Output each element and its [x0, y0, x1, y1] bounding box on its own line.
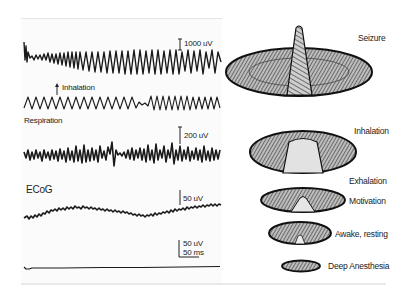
awake-cone-illustration [267, 220, 333, 246]
scale-label-v: 50 uV [183, 239, 203, 248]
inhalation-marker-label: Inhalation [62, 83, 95, 92]
respiration-label: Respiration [24, 116, 62, 125]
scale-label-1000uv: 1000 uV [184, 39, 212, 48]
olfactory-trace [22, 140, 222, 170]
bottom-divider [21, 283, 386, 285]
inhalation-cone-illustration [248, 127, 358, 177]
respiration-trace [22, 94, 222, 114]
ecog-trace [22, 198, 222, 228]
scale-label-t: 50 ms [183, 248, 204, 257]
motivation-cone-illustration [259, 186, 347, 214]
state-label-awake: Awake, resting [335, 229, 388, 239]
state-label-exhalation: Exhalation [349, 176, 387, 186]
state-label-seizure: Seizure [358, 33, 385, 43]
seizure-cone-illustration [224, 22, 374, 112]
deep-anesthesia-illustration [280, 259, 322, 273]
anesthesia-trace [22, 264, 222, 272]
state-label-motivation: Motivation [349, 196, 386, 206]
ecog-label: ECoG [26, 184, 52, 195]
state-label-deep-anesthesia: Deep Anesthesia [328, 261, 389, 271]
scale-label-200uv: 200 uV [184, 131, 208, 140]
state-label-inhalation: Inhalation [354, 126, 389, 136]
